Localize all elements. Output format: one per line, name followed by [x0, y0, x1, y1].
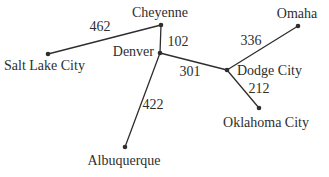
node-label-salt-lake-city: Salt Lake City	[4, 58, 85, 73]
graph-svg: 462102301336212422CheyenneOmahaSalt Lake…	[0, 0, 329, 177]
edge-weight-label-dodge-city-oklahoma-city: 212	[249, 81, 270, 96]
edge-cheyenne-denver	[160, 25, 161, 53]
node-dot-albuquerque	[123, 145, 128, 150]
node-dot-omaha	[296, 24, 301, 29]
node-label-omaha: Omaha	[277, 6, 318, 21]
node-dot-denver	[158, 51, 163, 56]
edge-weight-label-dodge-city-omaha: 336	[241, 33, 262, 48]
node-label-albuquerque: Albuquerque	[87, 153, 160, 168]
node-label-cheyenne: Cheyenne	[132, 5, 188, 20]
node-label-denver: Denver	[113, 44, 155, 59]
node-dot-dodge-city	[225, 68, 230, 73]
node-dot-oklahoma-city	[257, 106, 262, 111]
node-dot-cheyenne	[159, 23, 164, 28]
node-label-oklahoma-city: Oklahoma City	[223, 115, 309, 130]
edge-weight-label-cheyenne-denver: 102	[168, 34, 189, 49]
node-dot-salt-lake-city	[46, 52, 51, 57]
node-label-dodge-city: Dodge City	[237, 63, 302, 78]
edge-weight-label-salt-lake-city-cheyenne: 462	[90, 19, 111, 34]
edge-weight-label-denver-albuquerque: 422	[143, 97, 164, 112]
edge-weight-label-denver-dodge-city: 301	[180, 64, 201, 79]
city-distance-graph: 462102301336212422CheyenneOmahaSalt Lake…	[0, 0, 329, 177]
